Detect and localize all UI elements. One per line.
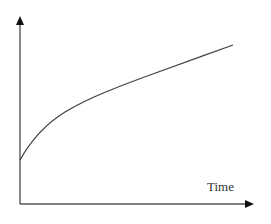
x-axis-label: Time xyxy=(207,179,234,194)
y-axis xyxy=(16,16,24,204)
data-curve xyxy=(20,45,233,160)
chart: Time xyxy=(0,0,271,224)
x-axis-arrow-icon xyxy=(245,200,254,208)
x-axis xyxy=(20,200,254,208)
y-axis-arrow-icon xyxy=(16,16,24,25)
